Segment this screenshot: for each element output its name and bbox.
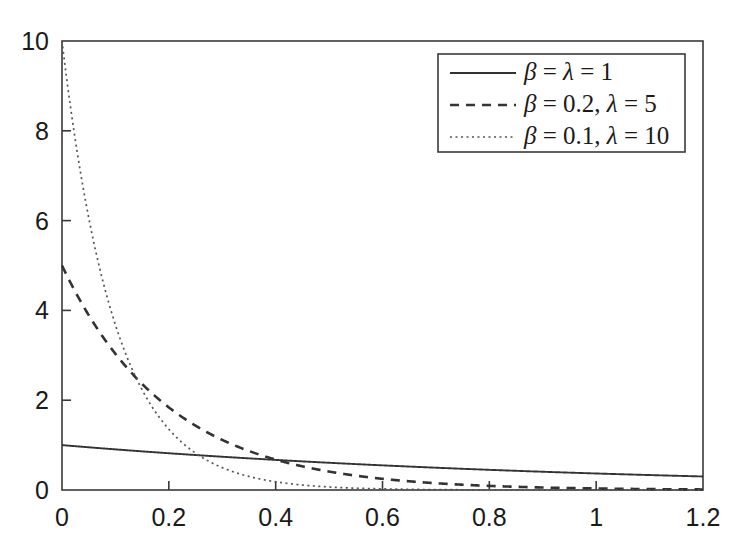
y-tick-label: 10: [21, 27, 49, 55]
x-tick-label: 0: [55, 503, 69, 531]
chart-canvas: 0246810 00.20.40.60.811.2 β = λ = 1β = 0…: [0, 0, 738, 557]
x-tick-label: 0.2: [151, 503, 186, 531]
y-tick-label: 6: [35, 207, 49, 235]
x-tick-label: 0.4: [258, 503, 293, 531]
x-tick-label: 0.8: [472, 503, 507, 531]
exponential-density-chart: 0246810 00.20.40.60.811.2 β = λ = 1β = 0…: [0, 0, 738, 557]
y-tick-label: 0: [35, 476, 49, 504]
legend-label-0: β = λ = 1: [523, 58, 613, 85]
x-tick-label: 1.2: [686, 503, 721, 531]
legend-label-1: β = 0.2, λ = 5: [523, 90, 657, 117]
x-tick-label: 1: [589, 503, 603, 531]
x-tick-label: 0.6: [365, 503, 400, 531]
y-tick-label: 4: [35, 296, 49, 324]
y-tick-label: 8: [35, 117, 49, 145]
y-tick-label: 2: [35, 386, 49, 414]
legend-label-2: β = 0.1, λ = 10: [523, 122, 669, 149]
legend: β = λ = 1β = 0.2, λ = 5β = 0.1, λ = 10: [438, 54, 685, 152]
